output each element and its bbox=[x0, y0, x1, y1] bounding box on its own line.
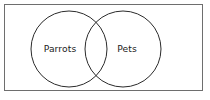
venn-diagram-figure: Parrots Pets bbox=[0, 0, 210, 100]
set-label-parrots: Parrots bbox=[44, 43, 77, 54]
set-label-pets: Pets bbox=[117, 43, 137, 54]
universal-set-rectangle bbox=[5, 5, 203, 91]
venn-diagram-canvas: Parrots Pets bbox=[0, 0, 210, 100]
